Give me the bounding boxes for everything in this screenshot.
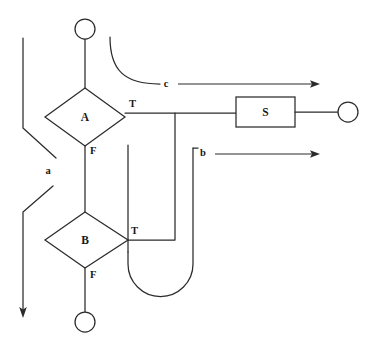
branch-label-B-false: F	[90, 269, 96, 280]
edge-label-b: b	[200, 147, 206, 158]
branch-label-A-true: T	[129, 98, 136, 109]
decision-node-A-label: A	[81, 111, 90, 123]
connector-a-upper-segment	[23, 38, 56, 158]
connector-loop-back-to-B-true	[128, 113, 175, 240]
flowchart-diagram: A B S c b	[0, 0, 379, 351]
flowchart-canvas: A B S c b	[0, 0, 379, 351]
process-node-S-label: S	[262, 106, 268, 118]
end-terminal-circle-bottom	[75, 312, 95, 332]
connector-a-lower-segment	[23, 186, 53, 310]
branch-label-A-false: F	[90, 145, 96, 156]
connector-u-return-loop	[128, 148, 193, 297]
connector-c-arc	[110, 37, 160, 84]
decision-node-B-label: B	[81, 234, 89, 246]
start-terminal-circle	[75, 19, 95, 39]
branch-label-B-true: T	[131, 225, 138, 236]
edge-label-c: c	[164, 78, 169, 89]
end-terminal-circle-right	[338, 102, 358, 122]
edge-label-a: a	[45, 165, 51, 176]
